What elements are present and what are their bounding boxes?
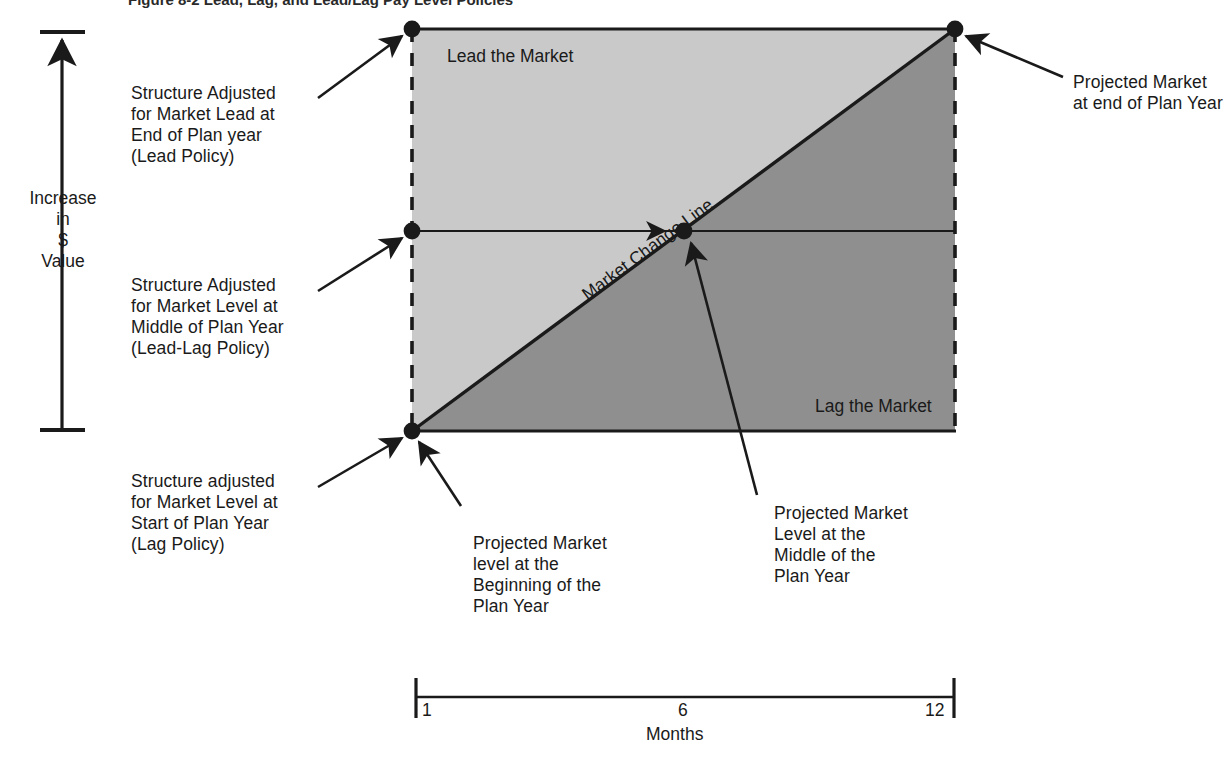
annotation-market-start: Projected Marketlevel at theBeginning of… (473, 533, 607, 617)
x-tick-label-1: 1 (422, 700, 432, 720)
x-tick-label-12: 12 (925, 700, 944, 720)
point-lag-start (404, 423, 421, 440)
leader-arrow-market-start (419, 442, 461, 506)
leader-arrow-lag-policy (318, 438, 402, 487)
region-label-lead-the-market: Lead the Market (447, 46, 573, 66)
x-axis-label: Months (646, 724, 703, 744)
annotation-lead-policy: Structure Adjustedfor Market Lead atEnd … (131, 83, 276, 167)
point-market-end (947, 21, 964, 38)
annotation-lead-lag-policy: Structure Adjustedfor Market Level atMid… (131, 275, 284, 359)
leader-arrow-lead-lag-policy (318, 238, 402, 291)
annotation-market-end: Projected Marketat end of Plan Year (1073, 72, 1223, 114)
point-lead-start (404, 21, 421, 38)
leader-arrow-lead-policy (318, 36, 402, 98)
y-axis-label: Increasein$Value (0, 188, 126, 272)
region-label-lag-the-market: Lag the Market (815, 396, 932, 416)
annotation-lag-policy: Structure adjustedfor Market Level atSta… (131, 471, 278, 555)
x-tick-label-6: 6 (678, 700, 688, 720)
leader-arrow-market-end (966, 36, 1063, 77)
figure-canvas: Figure 8-2 Lead, Lag, and Lead/Lag Pay L… (0, 0, 1227, 770)
point-lead-lag-start (404, 223, 421, 240)
annotation-market-middle: Projected MarketLevel at theMiddle of th… (774, 503, 908, 587)
